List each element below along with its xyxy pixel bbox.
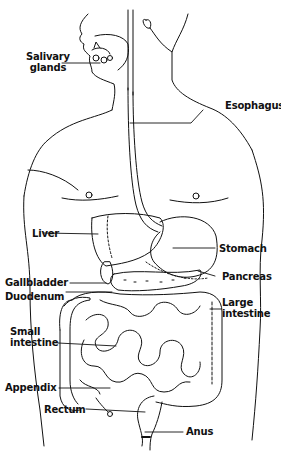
label-liver: Liver bbox=[32, 228, 59, 239]
pancreas-shape bbox=[101, 262, 202, 291]
liver-shape bbox=[92, 214, 164, 267]
small-intestine-coils bbox=[80, 300, 200, 394]
label-large-intestine-line1: Large bbox=[222, 297, 270, 308]
label-salivary-glands-line2: glands bbox=[26, 62, 70, 73]
label-gallbladder: Gallbladder bbox=[5, 277, 68, 288]
label-appendix: Appendix bbox=[5, 382, 56, 393]
label-salivary-glands: Salivary glands bbox=[26, 51, 70, 73]
label-pancreas: Pancreas bbox=[222, 271, 272, 282]
label-rectum: Rectum bbox=[44, 404, 86, 415]
label-stomach: Stomach bbox=[219, 243, 267, 254]
label-small-intestine-line2: intestine bbox=[10, 337, 58, 348]
label-esophagus: Esophagus bbox=[225, 100, 281, 111]
label-anus: Anus bbox=[186, 426, 213, 437]
label-duodenum: Duodenum bbox=[5, 291, 64, 302]
label-small-intestine: Small intestine bbox=[10, 326, 58, 348]
label-large-intestine: Large intestine bbox=[222, 297, 270, 319]
label-salivary-glands-line1: Salivary bbox=[26, 51, 70, 62]
label-large-intestine-line2: intestine bbox=[222, 308, 270, 319]
label-small-intestine-line1: Small bbox=[10, 326, 58, 337]
esophagus-tube bbox=[128, 88, 162, 232]
head-outline bbox=[24, 10, 252, 196]
